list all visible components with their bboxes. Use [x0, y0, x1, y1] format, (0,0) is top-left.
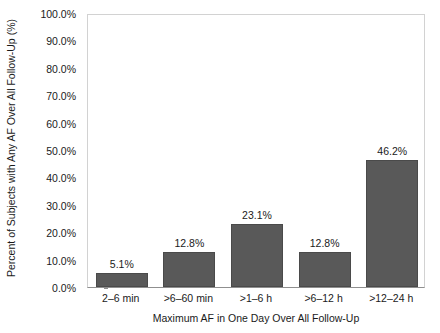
- y-axis-tick-label: 70.0%: [18, 91, 76, 101]
- y-axis-tick-label: 40.0%: [18, 173, 76, 183]
- y-axis-tick-labels: 0.0%10.0%20.0%30.0%40.0%50.0%60.0%70.0%8…: [22, 14, 82, 288]
- bar: [96, 273, 148, 287]
- x-axis-tick-label: >1–6 h: [222, 291, 290, 305]
- x-axis-tick-label: >6–60 min: [155, 291, 223, 305]
- y-axis-tick-label: 90.0%: [18, 36, 76, 46]
- y-axis-tick-label: 30.0%: [18, 201, 76, 211]
- bar-group: 12.8%: [291, 15, 359, 287]
- plot-area: 5.1%12.8%23.1%12.8%46.2%: [87, 14, 425, 288]
- bar-group: 12.8%: [156, 15, 224, 287]
- y-axis-tick-label: 20.0%: [18, 228, 76, 238]
- x-axis-tick-label: >12–24 h: [357, 291, 425, 305]
- bar-value-label: 12.8%: [310, 237, 340, 249]
- x-axis-tick-label: >6–12 h: [290, 291, 358, 305]
- x-axis-tick-label: 2–6 min: [87, 291, 155, 305]
- bar-value-label: 46.2%: [377, 145, 407, 157]
- x-axis-title: Maximum AF in One Day Over All Follow-Up: [87, 311, 425, 325]
- y-axis-tick-label: 60.0%: [18, 119, 76, 129]
- bars-layer: 5.1%12.8%23.1%12.8%46.2%: [88, 15, 424, 287]
- bar: [366, 160, 418, 287]
- y-axis-tick-label: 100.0%: [18, 9, 76, 19]
- y-axis-tick-label: 0.0%: [18, 283, 76, 293]
- y-axis-tick-label: 10.0%: [18, 256, 76, 266]
- y-axis-tick-label: 50.0%: [18, 146, 76, 156]
- bar-value-label: 5.1%: [110, 258, 134, 270]
- bar: [163, 252, 215, 287]
- x-axis-tick-labels: 2–6 min>6–60 min>1–6 h>6–12 h>12–24 h: [87, 291, 425, 307]
- bar-value-label: 12.8%: [175, 237, 205, 249]
- y-axis-tick-label: 80.0%: [18, 64, 76, 74]
- bar-group: 5.1%: [88, 15, 156, 287]
- bar-value-label: 23.1%: [242, 209, 272, 221]
- y-axis-tick-mark: [104, 288, 108, 289]
- bar: [231, 224, 283, 287]
- bar: [299, 252, 351, 287]
- bar-group: 23.1%: [223, 15, 291, 287]
- bar-group: 46.2%: [358, 15, 426, 287]
- bar-chart: Percent of Subjects with Any AF Over All…: [0, 0, 440, 333]
